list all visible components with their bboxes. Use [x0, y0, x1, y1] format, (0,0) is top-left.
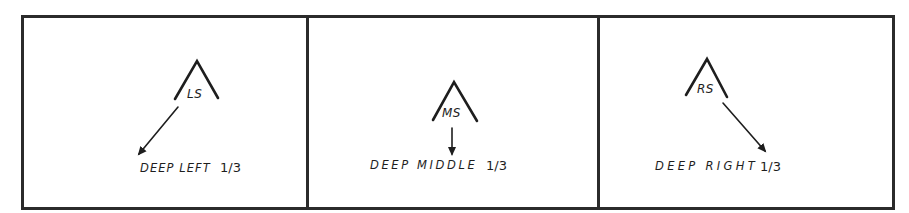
panel-middle: MS DEEP MIDDLE 1/3 — [370, 82, 507, 173]
panel-right: RS DEEP RIGHT 1/3 — [655, 59, 781, 174]
player-label-rs: RS — [697, 82, 714, 96]
zone-label-deep-left: DEEP LEFT — [140, 161, 211, 175]
arrow-down-right-icon — [723, 103, 765, 151]
fraction-middle: 1/3 — [486, 158, 507, 173]
zone-label-deep-middle: DEEP MIDDLE — [370, 158, 475, 172]
player-label-ls: LS — [187, 87, 202, 101]
arrow-down-left-icon — [139, 107, 178, 154]
coverage-diagram: LS DEEP LEFT 1/3 MS DEEP MIDDLE 1/3 RS D… — [0, 0, 909, 213]
zone-label-deep-right: DEEP RIGHT — [655, 159, 756, 173]
fraction-left: 1/3 — [220, 160, 241, 175]
player-label-ms: MS — [442, 106, 461, 120]
panel-left: LS DEEP LEFT 1/3 — [139, 61, 241, 175]
fraction-right: 1/3 — [760, 159, 781, 174]
